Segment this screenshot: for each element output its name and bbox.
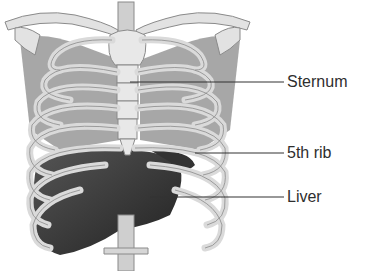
liver-label: Liver	[287, 188, 322, 206]
rib-cage-illustration	[0, 0, 383, 271]
sternum-label: Sternum	[287, 73, 347, 91]
fifth-rib-label: 5th rib	[287, 144, 331, 162]
